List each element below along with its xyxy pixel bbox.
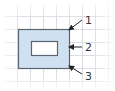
callout-label: 2 bbox=[85, 41, 92, 54]
inner-rectangle-opening bbox=[32, 42, 58, 56]
callout-label: 3 bbox=[85, 70, 92, 83]
diagram-canvas: 123 bbox=[0, 0, 115, 91]
callout-label: 1 bbox=[85, 14, 92, 27]
